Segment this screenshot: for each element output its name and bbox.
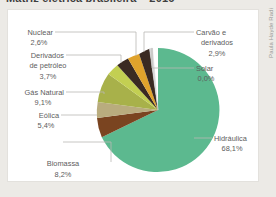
leader-line-gas-natural xyxy=(66,92,104,94)
label-solar-value: 0,0% xyxy=(198,74,215,83)
label-gas-natural-name: Gás Natural xyxy=(25,88,65,97)
label-carvao-derivados-name: Carvão e xyxy=(196,28,226,37)
leader-line-nuclear xyxy=(55,32,136,56)
chart-title-band: Matriz elétrica brasileira – 2016 xyxy=(0,0,276,7)
chart-card: Nuclear 2,6% Derivados de petróleo 3,7% … xyxy=(7,9,259,182)
label-derivados-petroleo-name2: de petróleo xyxy=(30,61,67,70)
label-nuclear-value: 2,6% xyxy=(31,38,48,47)
label-carvao-derivados-name2: derivados xyxy=(201,38,233,47)
pie-chart: Nuclear 2,6% Derivados de petróleo 3,7% … xyxy=(8,10,259,182)
label-gas-natural-value: 9,1% xyxy=(35,98,52,107)
label-biomassa-value: 8,2% xyxy=(55,170,72,179)
leader-line-derivados-petroleo xyxy=(66,55,121,63)
label-eolica-value: 5,4% xyxy=(38,121,55,130)
image-credit-text: Paula Hayde Radi xyxy=(268,8,274,58)
label-solar-name: Solar xyxy=(196,64,214,73)
label-hidraulica-name: Hidráulica xyxy=(214,134,248,143)
label-carvao-derivados-value: 2,9% xyxy=(209,49,226,58)
label-hidraulica-value: 68,1% xyxy=(222,144,243,153)
image-credit: Paula Hayde Radi xyxy=(265,8,276,88)
page-title: Matriz elétrica brasileira – 2016 xyxy=(6,0,175,4)
label-biomassa-name: Biomassa xyxy=(47,159,80,168)
label-derivados-petroleo-name: Derivados xyxy=(31,51,65,60)
chart-figure: Matriz elétrica brasileira – 2016 xyxy=(0,0,276,197)
label-nuclear-name: Nuclear xyxy=(28,28,54,37)
label-eolica-name: Eólica xyxy=(39,111,60,120)
label-derivados-petroleo-value: 3,7% xyxy=(40,72,57,81)
